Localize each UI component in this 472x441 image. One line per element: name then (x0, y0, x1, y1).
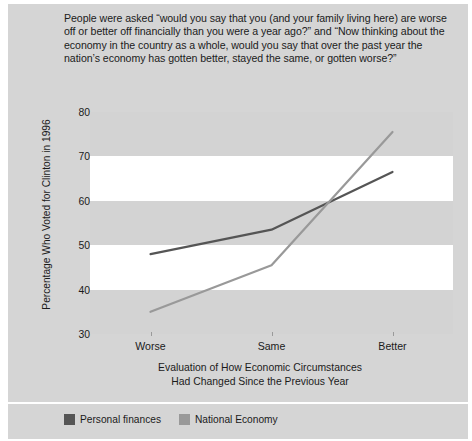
series-line (151, 132, 393, 312)
x-tick-mark (393, 332, 394, 336)
x-axis-title-line2: Had Changed Since the Previous Year (64, 375, 456, 389)
chart-legend: Personal financesNational Economy (64, 414, 278, 425)
legend-swatch (64, 414, 75, 425)
y-tick-label: 50 (78, 240, 90, 251)
legend-label: Personal finances (80, 414, 161, 425)
legend-item: Personal finances (64, 414, 161, 425)
legend-item: National Economy (179, 414, 278, 425)
line-chart-svg (90, 112, 453, 334)
legend-swatch (179, 414, 190, 425)
y-tick-label: 80 (78, 107, 90, 118)
y-tick-label: 40 (78, 284, 90, 295)
y-tick-label: 60 (78, 195, 90, 206)
figure-caption: People were asked “would you say that yo… (64, 12, 456, 66)
figure-panel: People were asked “would you say that yo… (8, 4, 468, 439)
x-tick-label: Worse (135, 340, 165, 352)
series-line (151, 172, 393, 254)
x-tick-mark (272, 332, 273, 336)
legend-separator (8, 402, 468, 404)
legend-label: National Economy (195, 414, 278, 425)
y-axis-title: Percentage Who Voted for Clinton in 1996 (41, 105, 52, 325)
x-tick-label: Better (378, 340, 406, 352)
x-axis-tick-labels: WorseSameBetter (90, 336, 453, 356)
x-axis-title: Evaluation of How Economic Circumstances… (64, 361, 456, 388)
y-axis-tick-labels: 304050607080 (52, 104, 90, 334)
x-axis-title-line1: Evaluation of How Economic Circumstances (64, 361, 456, 375)
x-tick-label: Same (258, 340, 286, 352)
x-tick-mark (151, 332, 152, 336)
y-tick-label: 30 (78, 329, 90, 340)
plot-area (90, 112, 453, 334)
y-tick-label: 70 (78, 151, 90, 162)
